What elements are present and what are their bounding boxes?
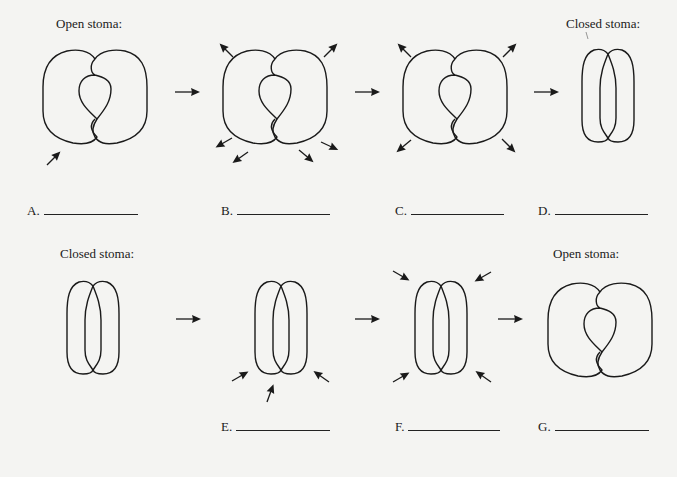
label-c: C. — [395, 203, 407, 218]
answer-blank-d[interactable]: D. — [538, 203, 648, 219]
stoma-f-closed — [415, 281, 467, 374]
stoma-b-open — [223, 50, 327, 144]
stoma-diagram — [0, 0, 677, 477]
arrow-icon — [44, 149, 63, 168]
caption-closed-stoma-top: Closed stoma: — [566, 16, 640, 32]
step-arrow-icon — [534, 88, 559, 96]
answer-line[interactable] — [555, 420, 649, 431]
answer-blank-c[interactable]: C. — [395, 203, 504, 219]
step-arrow-icon — [498, 315, 523, 323]
answer-blank-a[interactable]: A. — [27, 203, 138, 219]
caption-open-stoma-bottom: Open stoma: — [553, 246, 619, 262]
answer-blank-e[interactable]: E. — [221, 419, 330, 435]
step-arrow-icon — [176, 315, 201, 323]
answer-line[interactable] — [411, 204, 504, 215]
inward-arrows-icon — [230, 368, 331, 404]
step-arrow-icon — [355, 315, 380, 323]
answer-blank-b[interactable]: B. — [221, 203, 330, 219]
answer-line[interactable] — [237, 204, 330, 215]
stoma-e-closed — [255, 281, 307, 374]
stray-mark — [586, 32, 588, 39]
answer-blank-g[interactable]: G. — [538, 419, 649, 435]
answer-blank-f[interactable]: F. — [395, 419, 500, 435]
answer-line[interactable] — [236, 420, 330, 431]
label-e: E. — [221, 419, 232, 434]
stoma-c-open — [403, 50, 507, 144]
label-f: F. — [395, 419, 404, 434]
label-a: A. — [27, 203, 40, 218]
label-d: D. — [538, 203, 551, 218]
answer-line[interactable] — [44, 204, 138, 215]
stoma-closed-start — [67, 281, 119, 374]
caption-closed-stoma-bottom: Closed stoma: — [60, 246, 134, 262]
step-arrow-icon — [175, 88, 200, 96]
stoma-g-open — [548, 283, 652, 377]
answer-line[interactable] — [408, 420, 500, 431]
stoma-d-closed — [582, 49, 634, 142]
label-g: G. — [538, 419, 551, 434]
stoma-a-open — [43, 50, 147, 144]
caption-open-stoma-top: Open stoma: — [56, 16, 122, 32]
step-arrow-icon — [355, 88, 380, 96]
label-b: B. — [221, 203, 233, 218]
answer-line[interactable] — [555, 204, 648, 215]
